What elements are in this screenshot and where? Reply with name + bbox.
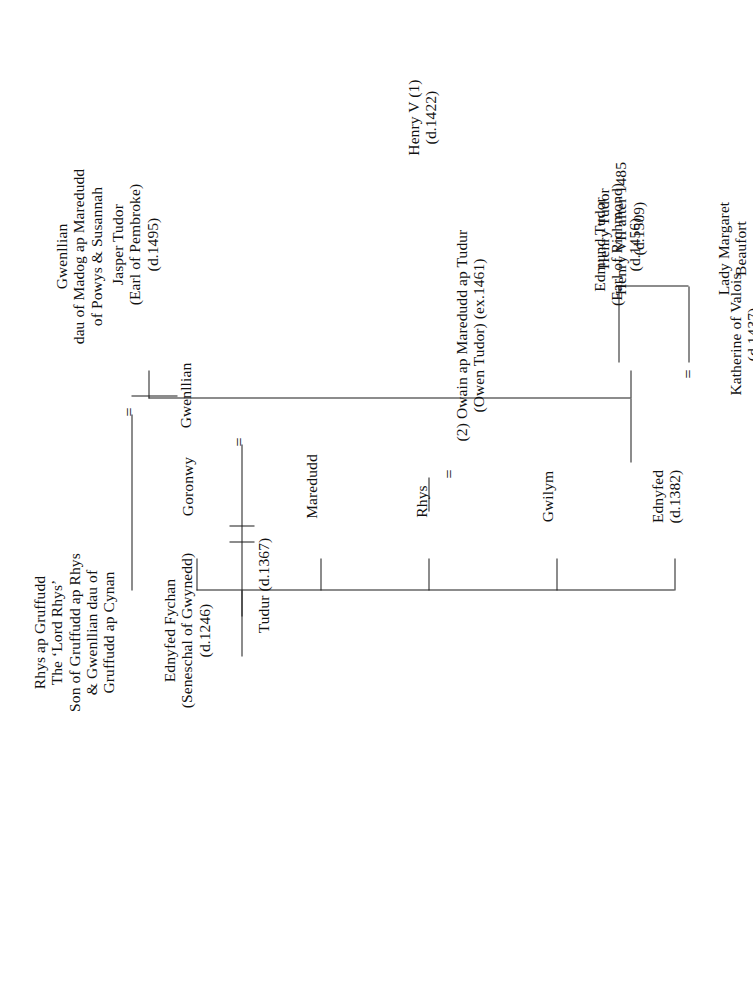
child-stub-gwilym (556, 558, 557, 590)
person-line: Gwilym (538, 436, 555, 556)
person-line: Ednyfed (648, 436, 665, 556)
child-stub-rhys (428, 558, 429, 590)
person-line: Henry VII after 1485 (611, 98, 628, 358)
person-gwenllian-madog: Gwenllian dau of Madog ap Maredudd of Po… (52, 100, 104, 412)
child-stub-jasper-tudor (148, 370, 149, 398)
child-stub-edmund-tudor (630, 370, 631, 398)
person-line: (2) Owain ap Maredudd ap Tudur (452, 162, 469, 508)
person-line: Gwenllian (52, 100, 69, 412)
descent-line-rhys-to-owain (428, 477, 429, 511)
person-line: & Gwenllian dau of (82, 492, 99, 772)
person-line: Henry V (1) (404, 24, 421, 210)
person-henry-tudor: Henry Tudor Henry VII after 1485 (d.1509… (594, 98, 646, 358)
person-line: Gruffudd ap Cynan (99, 492, 116, 772)
children-bracket-spine (196, 589, 674, 590)
marriage-symbol-ednyfed-gwenllian: = (231, 437, 247, 446)
person-tudur: Tudur (d.1367) (254, 480, 271, 690)
person-line: Tudur (d.1367) (254, 480, 271, 690)
marriage-line-rhys-gwenllian (131, 414, 132, 590)
person-goronwy: Goronwy (178, 416, 195, 556)
person-line: (d.1382) (665, 436, 682, 556)
marriage-symbol-rhys-gwenllian: = (121, 407, 137, 416)
person-rhys-ap-gruffudd: Rhys ap Gruffudd The ‘Lord Rhys’ Son of … (30, 492, 117, 772)
person-line: Lady Margaret (714, 146, 731, 350)
person-ednyfed: Ednyfed (d.1382) (648, 436, 683, 556)
page: Rhys ap Gruffudd The ‘Lord Rhys’ Son of … (0, 0, 753, 1008)
marriage-symbol-margaret-edmund: = (680, 369, 696, 378)
person-owain-tudur: (2) Owain ap Maredudd ap Tudur (Owen Tud… (452, 162, 487, 508)
person-line: (Earl of Pembroke) (125, 122, 142, 366)
descent-line-tudur (241, 590, 242, 656)
child-stub-goronwy (196, 558, 197, 590)
person-line: (Owen Tudor) (ex.1461) (469, 162, 486, 508)
person-rhys: Rhys (412, 446, 429, 556)
person-lady-margaret-beaufort: Lady Margaret Beaufort (d.1509) (714, 146, 753, 350)
person-line: (d.1246) (195, 474, 212, 786)
family-tree-chart: Rhys ap Gruffudd The ‘Lord Rhys’ Son of … (0, 0, 753, 1008)
person-henry-v: Henry V (1) (d.1422) (404, 24, 439, 210)
person-line: (d.1495) (143, 122, 160, 366)
person-gwilym: Gwilym (538, 436, 555, 556)
person-line: Rhys (412, 446, 429, 556)
child-stub-ednyfed (674, 558, 675, 590)
person-line: Henry Tudor (594, 98, 611, 358)
person-line: The ‘Lord Rhys’ (47, 492, 64, 772)
person-jasper-tudor: Jasper Tudor (Earl of Pembroke) (d.1495) (108, 122, 160, 366)
person-line: Maredudd (302, 416, 319, 556)
person-line: Beaufort (731, 146, 748, 350)
children-bracket-spine-tudors (148, 397, 630, 398)
person-maredudd: Maredudd (302, 416, 319, 556)
person-line: Jasper Tudor (108, 122, 125, 366)
child-stub-maredudd (320, 558, 321, 590)
person-line: (d.1509) (629, 98, 646, 358)
marriage-line-margaret-edmund (688, 286, 689, 362)
person-line: Son of Gruffudd ap Rhys (65, 492, 82, 772)
person-line: Ednyfed Fychan (160, 474, 177, 786)
person-line: dau of Madog ap Maredudd (69, 100, 86, 412)
generation-skip-tick-2 (229, 525, 254, 526)
descent-line-gwenllian (131, 395, 177, 396)
person-line: Rhys ap Gruffudd (30, 492, 47, 772)
generation-skip-tick-1 (229, 541, 254, 542)
marriage-symbol-katherine-owain: = (441, 469, 457, 478)
marriage-descent-stub-katherine-owain (630, 398, 631, 462)
person-line: (d.1422) (421, 24, 438, 210)
person-line: (d.1509) (749, 146, 753, 350)
person-line: of Powys & Susannah (87, 100, 104, 412)
person-line: Goronwy (178, 416, 195, 556)
